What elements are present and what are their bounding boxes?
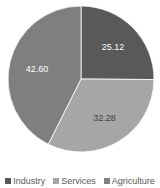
legend-label-industry: Industry	[13, 176, 45, 186]
data-label-industry: 25.12	[102, 42, 125, 52]
legend-label-agriculture: Agriculture	[112, 176, 155, 186]
chart-legend: Industry Services Agriculture	[0, 176, 160, 186]
data-label-agriculture: 42.60	[26, 64, 49, 74]
legend-swatch-industry	[5, 178, 11, 184]
legend-label-services: Services	[61, 176, 96, 186]
legend-swatch-services	[53, 178, 59, 184]
pie-chart: 25.1232.2842.60	[0, 0, 160, 170]
legend-item-agriculture: Agriculture	[104, 176, 155, 186]
legend-swatch-agriculture	[104, 178, 110, 184]
legend-item-industry: Industry	[5, 176, 45, 186]
legend-item-services: Services	[53, 176, 96, 186]
data-label-services: 32.28	[93, 113, 116, 123]
